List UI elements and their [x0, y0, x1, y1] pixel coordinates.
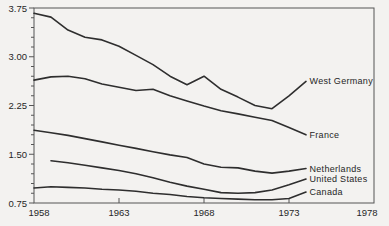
series-line-netherlands [34, 130, 306, 173]
x-axis-tick-label: 1978 [356, 207, 377, 218]
earnings-line-chart: 3.753.002.251.500.7519581963196819731978… [0, 0, 389, 226]
series-line-france [34, 76, 306, 135]
series-line-canada [34, 187, 306, 200]
x-axis-tick-label: 1968 [193, 207, 214, 218]
y-axis-tick-label: 2.25 [9, 100, 28, 111]
x-axis-tick-label: 1973 [278, 207, 299, 218]
series-label-netherlands: Netherlands [310, 164, 362, 174]
series-label-west-germany: West Germany [310, 76, 374, 86]
x-axis-tick-label: 1963 [108, 207, 129, 218]
y-axis-tick-label: 1.50 [9, 149, 28, 160]
y-axis-tick-label: 3.75 [9, 3, 28, 14]
x-axis-tick-label: 1958 [28, 207, 49, 218]
series-label-canada: Canada [310, 187, 343, 197]
y-axis-tick-label: 0.75 [9, 198, 28, 209]
series-label-france: France [310, 130, 340, 140]
y-axis-tick-label: 3.00 [9, 51, 28, 62]
series-line-west-germany [34, 13, 306, 109]
chart-canvas: 3.753.002.251.500.7519581963196819731978… [0, 0, 389, 226]
series-label-united-states: United States [310, 174, 368, 184]
